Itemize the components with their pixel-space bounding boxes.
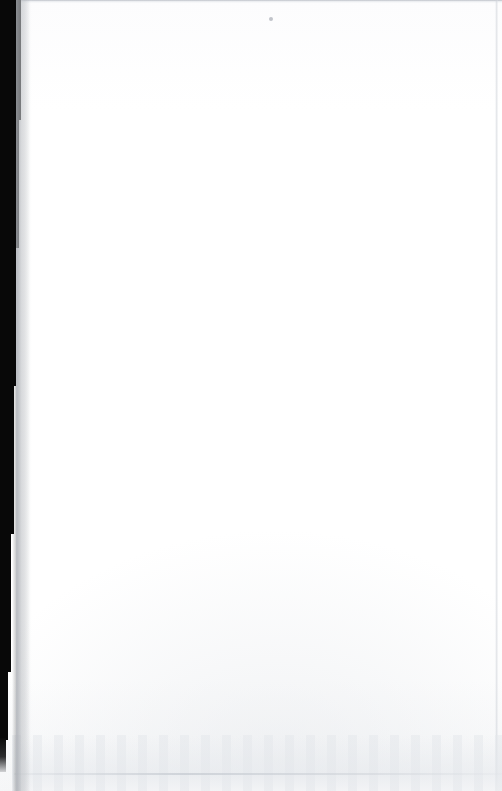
scanned-page <box>0 0 502 791</box>
page-surface <box>0 0 502 791</box>
page-right-edge-seam <box>495 0 498 791</box>
page-bottom-edge-rule <box>14 773 502 775</box>
page-top-edge-rule <box>18 0 502 3</box>
page-bottom-scan-noise <box>12 735 502 791</box>
page-edge-shadow <box>16 0 32 791</box>
scan-speck-artifact <box>269 17 273 21</box>
